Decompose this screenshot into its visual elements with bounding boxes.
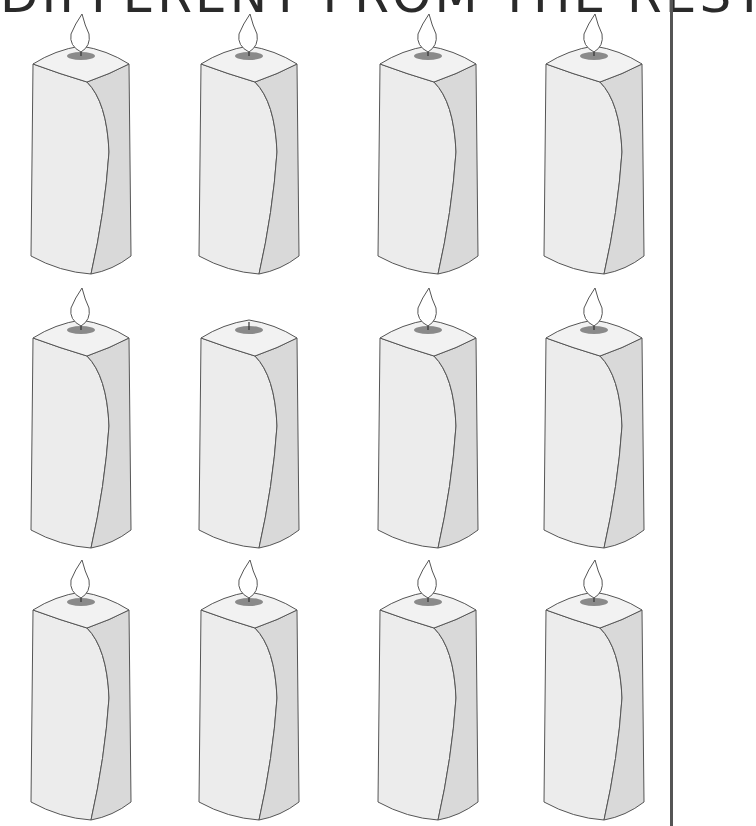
flame-icon <box>71 288 90 326</box>
candle-r1-c4[interactable] <box>538 12 648 282</box>
candle-icon <box>25 286 135 556</box>
flame-icon <box>584 288 603 326</box>
flame-icon <box>71 560 90 598</box>
candle-r2-c1[interactable] <box>25 286 135 556</box>
candle-icon <box>372 12 482 282</box>
flame-icon <box>239 14 258 52</box>
flame-icon <box>584 560 603 598</box>
candle-r1-c1[interactable] <box>25 12 135 282</box>
candle-r3-c4[interactable] <box>538 558 648 826</box>
candle-icon <box>25 12 135 282</box>
candle-r3-c1[interactable] <box>25 558 135 826</box>
flame-icon <box>71 14 90 52</box>
flame-icon <box>239 560 258 598</box>
candle-r2-c2[interactable] <box>193 286 303 556</box>
flame-icon <box>418 560 437 598</box>
candle-icon <box>538 286 648 556</box>
flame-icon <box>584 14 603 52</box>
candle-r2-c4[interactable] <box>538 286 648 556</box>
candle-icon <box>193 558 303 826</box>
flame-icon <box>418 14 437 52</box>
candle-r1-c3[interactable] <box>372 12 482 282</box>
candle-icon <box>538 558 648 826</box>
flame-icon <box>418 288 437 326</box>
candle-icon <box>193 286 303 556</box>
candle-icon <box>372 558 482 826</box>
candle-r2-c3[interactable] <box>372 286 482 556</box>
candle-icon <box>538 12 648 282</box>
candle-icon <box>372 286 482 556</box>
candle-icon <box>193 12 303 282</box>
candle-icon <box>25 558 135 826</box>
candle-r1-c2[interactable] <box>193 12 303 282</box>
candle-r3-c2[interactable] <box>193 558 303 826</box>
page-border <box>670 0 673 826</box>
candle-r3-c3[interactable] <box>372 558 482 826</box>
